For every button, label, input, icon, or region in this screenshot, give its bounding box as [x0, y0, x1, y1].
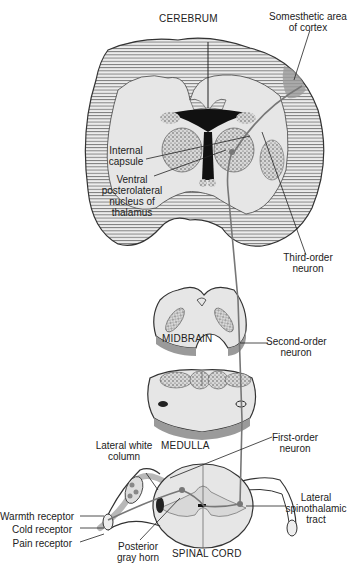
second-order-line-1: Second-order — [266, 336, 326, 347]
lateral-spinothalamic-tract-label: Lateral spinothalamic tract — [284, 492, 348, 525]
somesthetic-area-label: Somesthetic area of cortex — [260, 11, 356, 33]
warmth-receptor-label: Warmth receptor — [0, 511, 72, 522]
lst-line-3: tract — [284, 514, 348, 525]
lst-line-2: spinothalamic — [284, 503, 348, 514]
posterior-horn-line-2: gray horn — [114, 552, 162, 563]
pain-receptor-label: Pain receptor — [0, 538, 72, 549]
posterior-gray-horn-label: Posterior gray horn — [114, 541, 162, 563]
third-order-line-1: Third-order — [280, 252, 336, 263]
vpl-line-1: Ventral — [100, 174, 164, 185]
posterior-horn-line-1: Posterior — [114, 541, 162, 552]
spinal-cord-label: SPINAL CORD — [172, 548, 242, 559]
internal-capsule-line-1: Internal — [104, 145, 148, 156]
lst-line-1: Lateral — [284, 492, 348, 503]
second-order-neuron-label: Second-order neuron — [266, 336, 326, 358]
first-order-line-2: neuron — [268, 443, 322, 454]
third-order-neuron-label: Third-order neuron — [280, 252, 336, 274]
first-order-line-1: First-order — [268, 432, 322, 443]
cerebrum-label: CEREBRUM — [159, 13, 218, 24]
first-order-neuron-label: First-order neuron — [268, 432, 322, 454]
lateral-white-line-1: Lateral white — [92, 440, 156, 451]
somesthetic-line-2: of cortex — [260, 22, 356, 33]
vpl-line-4: thalamus — [100, 207, 164, 218]
somesthetic-line-1: Somesthetic area — [260, 11, 356, 22]
medulla-section — [148, 370, 256, 440]
vpl-nucleus-label: Ventral posterolateral nucleus of thalam… — [100, 174, 164, 218]
second-order-line-2: neuron — [266, 347, 326, 358]
internal-capsule-line-2: capsule — [104, 156, 148, 167]
lateral-white-line-2: column — [92, 451, 156, 462]
vpl-line-2: posterolateral — [100, 185, 164, 196]
pathway-illustration — [0, 0, 358, 576]
cold-receptor-label: Cold receptor — [0, 524, 72, 535]
third-order-line-2: neuron — [280, 263, 336, 274]
vpl-line-3: nucleus of — [100, 196, 164, 207]
midbrain-label: MIDBRAIN — [162, 333, 213, 344]
medulla-label: MEDULLA — [161, 440, 210, 451]
internal-capsule-label: Internal capsule — [104, 145, 148, 167]
lateral-white-column-label: Lateral white column — [92, 440, 156, 462]
midbrain-section — [154, 287, 247, 356]
